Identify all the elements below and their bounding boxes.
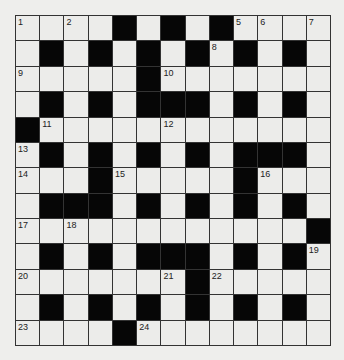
crossword-cell[interactable]: 17	[16, 219, 39, 243]
crossword-cell[interactable]	[258, 321, 281, 345]
crossword-cell[interactable]	[307, 143, 330, 167]
crossword-cell[interactable]	[113, 270, 136, 294]
crossword-cell[interactable]	[307, 321, 330, 345]
crossword-cell[interactable]	[258, 270, 281, 294]
crossword-cell[interactable]	[89, 219, 112, 243]
crossword-cell[interactable]	[186, 67, 209, 91]
crossword-cell[interactable]	[113, 295, 136, 319]
crossword-cell[interactable]	[16, 244, 39, 268]
crossword-cell[interactable]	[16, 41, 39, 65]
crossword-cell[interactable]	[137, 168, 160, 192]
crossword-cell[interactable]	[186, 118, 209, 142]
crossword-cell[interactable]	[258, 244, 281, 268]
crossword-cell[interactable]: 18	[64, 219, 87, 243]
crossword-cell[interactable]	[307, 168, 330, 192]
crossword-cell[interactable]	[234, 270, 257, 294]
crossword-cell[interactable]	[210, 194, 233, 218]
crossword-cell[interactable]	[258, 67, 281, 91]
crossword-cell[interactable]	[64, 295, 87, 319]
crossword-cell[interactable]: 2	[64, 16, 87, 40]
crossword-cell[interactable]	[113, 67, 136, 91]
crossword-cell[interactable]: 21	[161, 270, 184, 294]
crossword-cell[interactable]	[161, 194, 184, 218]
crossword-cell[interactable]	[40, 219, 63, 243]
crossword-cell[interactable]	[186, 321, 209, 345]
crossword-cell[interactable]	[113, 143, 136, 167]
crossword-cell[interactable]: 11	[40, 118, 63, 142]
crossword-cell[interactable]	[89, 321, 112, 345]
crossword-cell[interactable]: 24	[137, 321, 160, 345]
crossword-cell[interactable]	[307, 41, 330, 65]
crossword-cell[interactable]	[64, 168, 87, 192]
crossword-cell[interactable]	[89, 67, 112, 91]
crossword-cell[interactable]: 13	[16, 143, 39, 167]
crossword-cell[interactable]	[113, 194, 136, 218]
crossword-cell[interactable]	[64, 67, 87, 91]
crossword-cell[interactable]	[64, 143, 87, 167]
crossword-cell[interactable]	[307, 270, 330, 294]
crossword-cell[interactable]: 23	[16, 321, 39, 345]
crossword-cell[interactable]: 5	[234, 16, 257, 40]
crossword-cell[interactable]: 16	[258, 168, 281, 192]
crossword-cell[interactable]	[161, 321, 184, 345]
crossword-cell[interactable]	[161, 295, 184, 319]
crossword-cell[interactable]	[210, 321, 233, 345]
crossword-cell[interactable]	[137, 16, 160, 40]
crossword-cell[interactable]	[40, 67, 63, 91]
crossword-cell[interactable]	[307, 67, 330, 91]
crossword-cell[interactable]	[210, 168, 233, 192]
crossword-cell[interactable]	[16, 295, 39, 319]
crossword-cell[interactable]	[234, 219, 257, 243]
crossword-cell[interactable]	[283, 16, 306, 40]
crossword-cell[interactable]: 12	[161, 118, 184, 142]
crossword-cell[interactable]	[40, 321, 63, 345]
crossword-cell[interactable]	[283, 118, 306, 142]
crossword-cell[interactable]	[16, 92, 39, 116]
crossword-cell[interactable]	[258, 219, 281, 243]
crossword-cell[interactable]	[113, 219, 136, 243]
crossword-cell[interactable]	[210, 244, 233, 268]
crossword-cell[interactable]	[210, 219, 233, 243]
crossword-cell[interactable]	[16, 194, 39, 218]
crossword-cell[interactable]	[258, 295, 281, 319]
crossword-cell[interactable]	[161, 219, 184, 243]
crossword-cell[interactable]	[113, 244, 136, 268]
crossword-cell[interactable]	[283, 168, 306, 192]
crossword-cell[interactable]	[186, 16, 209, 40]
crossword-cell[interactable]: 8	[210, 41, 233, 65]
crossword-cell[interactable]	[283, 270, 306, 294]
crossword-cell[interactable]	[137, 219, 160, 243]
crossword-cell[interactable]	[113, 41, 136, 65]
crossword-cell[interactable]	[283, 321, 306, 345]
crossword-cell[interactable]	[186, 168, 209, 192]
crossword-cell[interactable]	[186, 219, 209, 243]
crossword-cell[interactable]: 22	[210, 270, 233, 294]
crossword-cell[interactable]	[307, 118, 330, 142]
crossword-cell[interactable]	[64, 118, 87, 142]
crossword-cell[interactable]	[89, 270, 112, 294]
crossword-cell[interactable]	[113, 118, 136, 142]
crossword-cell[interactable]: 10	[161, 67, 184, 91]
crossword-cell[interactable]	[210, 92, 233, 116]
crossword-cell[interactable]	[64, 321, 87, 345]
crossword-cell[interactable]	[258, 41, 281, 65]
crossword-cell[interactable]	[258, 118, 281, 142]
crossword-cell[interactable]	[258, 194, 281, 218]
crossword-cell[interactable]	[64, 41, 87, 65]
crossword-cell[interactable]: 14	[16, 168, 39, 192]
crossword-cell[interactable]	[283, 219, 306, 243]
crossword-cell[interactable]	[89, 118, 112, 142]
crossword-cell[interactable]	[307, 295, 330, 319]
crossword-cell[interactable]	[161, 41, 184, 65]
crossword-cell[interactable]	[234, 67, 257, 91]
crossword-cell[interactable]	[40, 168, 63, 192]
crossword-cell[interactable]	[64, 270, 87, 294]
crossword-cell[interactable]	[137, 118, 160, 142]
crossword-cell[interactable]	[64, 244, 87, 268]
crossword-cell[interactable]: 15	[113, 168, 136, 192]
crossword-cell[interactable]	[40, 16, 63, 40]
crossword-cell[interactable]: 9	[16, 67, 39, 91]
crossword-cell[interactable]	[64, 92, 87, 116]
crossword-cell[interactable]: 1	[16, 16, 39, 40]
crossword-cell[interactable]: 7	[307, 16, 330, 40]
